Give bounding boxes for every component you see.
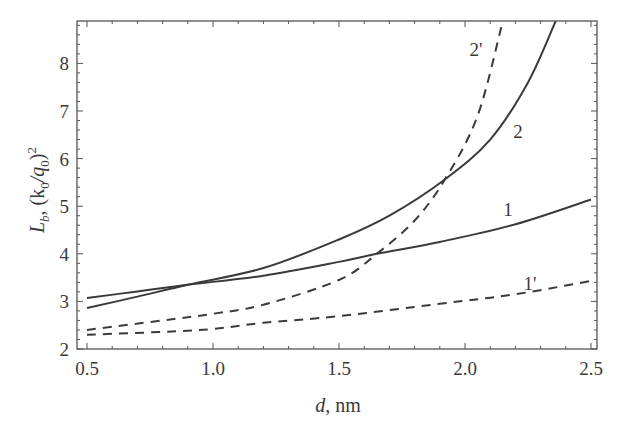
curve-labels: 2'211' (470, 39, 537, 294)
curve-label: 1' (524, 273, 537, 294)
y-tick-label: 6 (60, 149, 70, 170)
y-tick-label: 2 (60, 339, 70, 360)
y-tick-label: 4 (60, 244, 70, 265)
curve-label: 2' (470, 39, 483, 60)
x-tick-label: 2.5 (579, 358, 603, 379)
y-tick-label: 5 (60, 196, 70, 217)
curves (87, 21, 591, 335)
y-tick-label: 3 (60, 291, 70, 312)
x-axis-label: d, nm (315, 394, 361, 416)
plot-frame (77, 21, 597, 349)
x-tick-label: 1.5 (327, 358, 351, 379)
curve-label: 1 (503, 199, 513, 220)
curve-1 (87, 200, 591, 299)
x-tick-label: 2.0 (453, 358, 477, 379)
y-tick-label: 7 (60, 101, 70, 122)
y-axis-label: Lb, (k0/q0)2 (24, 147, 52, 234)
line-chart: 0.51.01.52.02.52345678 2'211' d, nm Lb, … (0, 0, 618, 432)
x-tick-label: 0.5 (75, 358, 99, 379)
curve-label: 2 (513, 121, 523, 142)
y-tick-label: 8 (60, 53, 70, 74)
axis-ticks: 0.51.01.52.02.52345678 (60, 21, 603, 379)
curve-2prime (87, 21, 503, 330)
plot-border (77, 21, 597, 349)
x-tick-label: 1.0 (201, 358, 225, 379)
